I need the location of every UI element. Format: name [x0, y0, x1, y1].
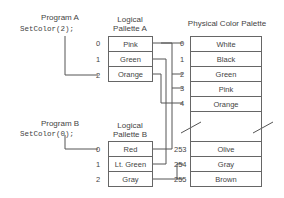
program-b-code: SetColor(0);	[20, 130, 74, 138]
logical-b-index-0: 0	[96, 145, 100, 154]
program-a-connector	[65, 36, 98, 75]
logical-palette-b-title-line1: Logical	[104, 121, 156, 130]
logical-b-index-1: 1	[96, 160, 100, 169]
logical-palette-b-title-line2: Pallette B	[104, 130, 156, 139]
physical-entry-olive: Olive	[190, 141, 262, 157]
logical-b-index-2: 2	[96, 175, 100, 184]
physical-index-254: 254	[174, 160, 187, 169]
logical-palette-a-title-line1: Logical	[104, 15, 156, 24]
physical-index-0: 0	[180, 39, 184, 48]
program-a-code: SetColor(2);	[20, 25, 74, 33]
physical-entry-black: Black	[190, 51, 262, 67]
physical-index-4: 4	[180, 99, 184, 108]
program-a-title: Program A	[20, 13, 100, 22]
physical-entry-green: Green	[190, 66, 262, 82]
physical-entry-pink: Pink	[190, 81, 262, 97]
logical-a-index-2: 2	[96, 71, 100, 80]
logical-a-index-1: 1	[96, 55, 100, 64]
physical-entry-white: White	[190, 36, 262, 52]
physical-index-1: 1	[180, 55, 184, 64]
physical-index-255: 255	[174, 175, 187, 184]
logical-b-entry-gray: Gray	[108, 171, 153, 187]
physical-palette-title: Physical Color Palette	[185, 19, 269, 28]
program-b-title: Program B	[20, 119, 100, 128]
logical-b-entry-lt-green: Lt. Green	[108, 156, 153, 172]
physical-entry-orange: Orange	[190, 96, 262, 112]
logical-b-entry-red: Red	[108, 141, 153, 157]
physical-entry-gray: Gray	[190, 156, 262, 172]
physical-palette-break-right-edge	[261, 111, 262, 141]
logical-a-entry-pink: Pink	[108, 36, 153, 52]
logical-palette-b-title: Logical Pallette B	[104, 121, 156, 139]
physical-entry-brown: Brown	[190, 171, 262, 187]
logical-a-index-0: 0	[96, 39, 100, 48]
logical-palette-a-title: Logical Pallette A	[104, 15, 156, 33]
logical-a-entry-green: Green	[108, 51, 153, 67]
logical-a-entry-orange: Orange	[108, 66, 153, 82]
physical-index-253: 253	[174, 145, 187, 154]
physical-index-2: 2	[180, 70, 184, 79]
physical-palette-break-left-edge	[190, 111, 191, 141]
physical-index-3: 3	[180, 84, 184, 93]
logical-palette-a-title-line2: Pallette A	[104, 24, 156, 33]
